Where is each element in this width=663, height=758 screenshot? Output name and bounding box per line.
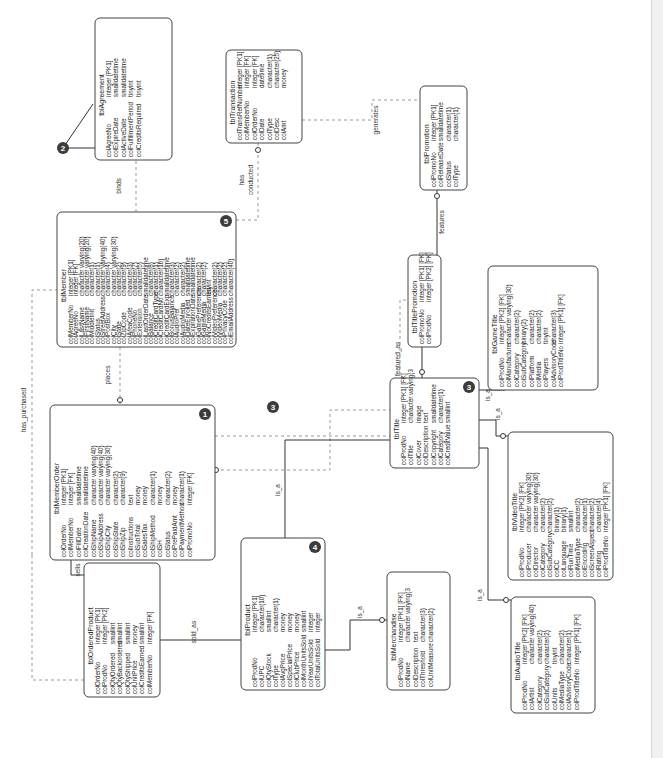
cardinality-optional-places bbox=[118, 398, 123, 403]
relationship-is-a-merch-line bbox=[325, 620, 387, 650]
cardinality-optional-merch bbox=[380, 618, 385, 623]
callout-badge-4: 4 bbox=[309, 541, 321, 553]
relationship-conducted-label: conducted bbox=[247, 165, 254, 195]
attribute-name: colStatus bbox=[445, 161, 452, 187]
attribute-name: colProdNo bbox=[521, 680, 528, 710]
attribute-name: colDesc bbox=[273, 118, 280, 140]
attribute-name: colMemberNo bbox=[67, 517, 74, 557]
cardinality-optional-conducted bbox=[256, 148, 261, 153]
attribute-name: colActiveDate bbox=[120, 118, 127, 157]
attribute-type: integer [PK1] [FK] bbox=[602, 482, 610, 532]
attribute-name: colTitle bbox=[407, 445, 414, 465]
entity-tblAgreement[interactable]: tblAgreementcolAgreeNointeger [PK1]colEx… bbox=[95, 18, 172, 160]
entity-tblVideoTitle[interactable]: tblVideoTitlecolProdNointeger [PK2] [FK]… bbox=[508, 432, 613, 580]
relationship-generates-line bbox=[302, 100, 420, 120]
relationship-is-a-audio-label: is_a bbox=[476, 589, 484, 601]
entity-title: tblProduct bbox=[244, 604, 251, 636]
attribute-name: colCC bbox=[553, 559, 560, 577]
attribute-name: colPrePaidAmt bbox=[171, 515, 178, 557]
attribute-name: colType bbox=[452, 165, 460, 187]
attribute-name: colEmailAddress bbox=[227, 297, 234, 344]
attribute-type: smallint bbox=[567, 510, 574, 532]
cardinality-optional-features bbox=[435, 194, 440, 199]
entity-title: tblOrderedProduct bbox=[87, 607, 94, 664]
attribute-type: datetime bbox=[258, 63, 265, 88]
attribute-name: colSalesTax bbox=[141, 523, 148, 557]
relationship-places-label: places bbox=[104, 365, 112, 385]
attribute-type: smalldatetime bbox=[112, 58, 119, 97]
attribute-type: tinyint bbox=[135, 80, 143, 97]
attribute-name: colUnitMeasure bbox=[427, 643, 434, 687]
attribute-type: smalldatetime bbox=[120, 58, 127, 97]
attribute-name: colPromoNo bbox=[186, 522, 193, 557]
svg-text:3: 3 bbox=[467, 383, 472, 392]
entity-tblGameTitle[interactable]: tblGameTitlecolProdNointeger [PK2] [FK]c… bbox=[488, 266, 598, 390]
attribute-name: colProdNo bbox=[251, 657, 258, 687]
attribute-type: smallint bbox=[265, 610, 272, 632]
svg-text:5: 5 bbox=[224, 217, 229, 226]
attribute-type: smallint bbox=[124, 622, 131, 644]
attribute-name: colProdNo bbox=[498, 357, 505, 387]
attribute-name: colMonthUnitsSold bbox=[300, 634, 307, 687]
entity-tblProduct[interactable]: tblProductcolProdNointeger [PK1]colUPCch… bbox=[241, 538, 325, 690]
entity-title: tblMerchandise bbox=[390, 613, 397, 661]
attribute-type: smallint bbox=[109, 622, 116, 644]
entity-tblPromotion[interactable]: tblPromotioncolPromoNointeger [PK1]colRe… bbox=[420, 86, 467, 190]
attribute-name: colProdTitleNo bbox=[557, 345, 564, 387]
relationship-binds-label: binds bbox=[115, 177, 122, 193]
attribute-name: colCreationDate bbox=[82, 511, 89, 557]
attribute-name: colUnits bbox=[551, 688, 558, 710]
relationship-has-purchased-label: has_purchased bbox=[20, 387, 28, 432]
entity-tblAudioTitle[interactable]: tblAudioTitlecolProdNointeger [PK2] [FK]… bbox=[511, 597, 595, 713]
attribute-name: colYearUnitsSold bbox=[307, 639, 314, 687]
entity-title: tblTitlePromotion bbox=[411, 281, 418, 333]
relationship-is-a-title-label: is_a bbox=[274, 484, 282, 496]
entity-title: tblAudioTitle bbox=[514, 642, 521, 680]
svg-text:2: 2 bbox=[61, 144, 66, 153]
attribute-name: colDirector bbox=[532, 547, 539, 577]
cardinality-optional-video bbox=[501, 434, 506, 439]
attribute-name: colClubPrice bbox=[293, 651, 300, 687]
attribute-name: colProdTitleNo bbox=[602, 535, 609, 577]
attribute-name: colOrderNo bbox=[251, 107, 258, 140]
entity-tblTransaction[interactable]: tblTransactioncolTransRefNumberinteger [… bbox=[226, 50, 302, 143]
attribute-name: colProducer bbox=[525, 543, 532, 577]
attribute-name: colUnitPrice bbox=[131, 660, 138, 694]
attribute-type: smalldatetime bbox=[437, 102, 444, 141]
entity-tblMemberOrder[interactable]: tblMemberOrdercolOrderNointeger [PK1]col… bbox=[50, 405, 215, 560]
attribute-name: colName bbox=[404, 662, 411, 687]
attribute-type: smalldatetime bbox=[430, 384, 437, 423]
attribute-name: colPromoNo bbox=[430, 152, 437, 187]
attribute-type: text bbox=[422, 413, 429, 423]
callout-badge-3: 3 bbox=[267, 401, 279, 413]
relationship-is-a-audio-line bbox=[479, 448, 511, 600]
entity-tblTitle[interactable]: tblTitlecolProdNointeger [PK1] [FK]colTi… bbox=[390, 369, 479, 468]
vertical-scrollbar[interactable] bbox=[651, 0, 663, 758]
entity-tblMerchandise[interactable]: tblMerchandisecolProdNointeger [PK1] [FK… bbox=[387, 572, 450, 690]
attribute-name: colReleaseDate bbox=[437, 142, 444, 187]
attribute-name: colPlatform bbox=[528, 356, 535, 388]
attribute-type: smalldatetime bbox=[82, 466, 89, 505]
entity-tblTitlePromotion[interactable]: tblTitlePromotioncolPromoNointeger [PK1]… bbox=[408, 252, 441, 347]
attribute-name: colProdNo bbox=[518, 547, 525, 577]
attribute-type: text bbox=[412, 632, 419, 642]
attribute-type: integer [FK] bbox=[186, 472, 194, 505]
entity-tblOrderedProduct[interactable]: tblOrderedProductcolOrderNointeger [PK1]… bbox=[84, 563, 160, 697]
callout-badge-1: 1 bbox=[199, 408, 211, 420]
attribute-name: colCreditsRequired bbox=[135, 103, 143, 157]
entity-title: tblGameTitle bbox=[491, 314, 498, 354]
relationship-features-label: features bbox=[438, 210, 445, 234]
cardinality-optional-audio bbox=[504, 598, 509, 603]
attribute-type: money bbox=[280, 68, 288, 88]
callout-badge-3: 3 bbox=[463, 381, 475, 393]
attribute-name: colUPC bbox=[258, 665, 265, 687]
entity-title: tblMemberOrder bbox=[53, 462, 60, 514]
entity-title: tblPromotion bbox=[423, 124, 430, 163]
entity-tblMember[interactable]: tblMembercolMemberNointeger [PK1]colAgre… bbox=[57, 212, 236, 347]
attribute-name: colTotalUnitsSold bbox=[314, 638, 321, 687]
cardinality-optional-featured bbox=[420, 370, 425, 375]
attribute-type: character(40) bbox=[227, 259, 235, 296]
attribute-name: colCover bbox=[415, 440, 422, 465]
callout-badge-5: 5 bbox=[220, 215, 232, 227]
attribute-name: colMemberNo bbox=[243, 100, 250, 140]
